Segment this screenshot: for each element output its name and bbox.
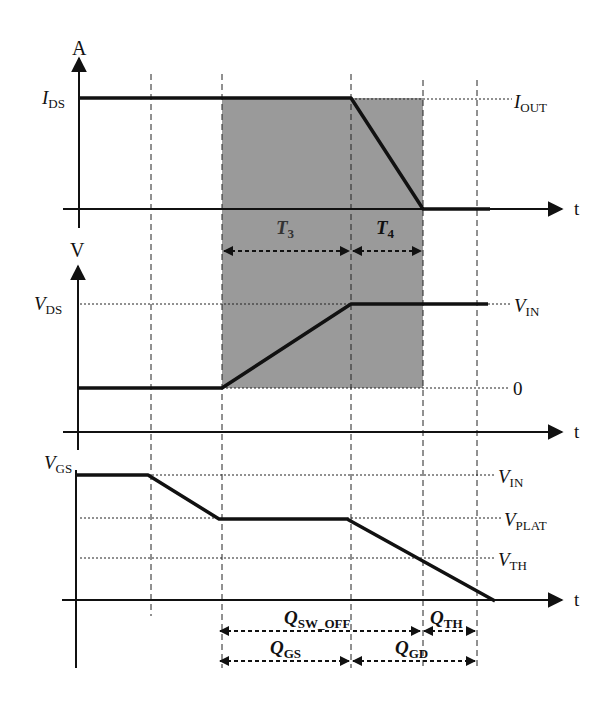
- qgd-label: QGD: [395, 638, 428, 660]
- time-axis-label-bottom: t: [574, 590, 579, 609]
- t4-label: T4: [376, 218, 394, 240]
- vds-label: VDS: [34, 294, 62, 316]
- time-axis-label-top: t: [574, 199, 579, 218]
- zero-label: 0: [513, 379, 523, 398]
- gate-voltage-waveform: [76, 475, 495, 601]
- current-axis-label: A: [72, 38, 86, 58]
- turn-off-transition-shade: [222, 98, 423, 388]
- vin-label-drain: VIN: [514, 296, 539, 318]
- vgs-label: VGS: [44, 453, 72, 475]
- ids-label: IDS: [42, 88, 65, 110]
- vth-label: VTH: [498, 550, 527, 572]
- qth-label: QTH: [430, 608, 463, 630]
- qsw-off-label: QSW_OFF: [284, 608, 350, 630]
- vin-label-gate: VIN: [498, 467, 523, 489]
- iout-label: IOUT: [514, 92, 547, 114]
- voltage-axis-label: V: [70, 240, 84, 260]
- t3-label: T3: [276, 218, 294, 240]
- time-axis-label-middle: t: [574, 422, 579, 441]
- charge-arrows: [220, 631, 475, 661]
- vplat-label: VPLAT: [504, 510, 547, 532]
- qgs-label: QGS: [270, 638, 301, 660]
